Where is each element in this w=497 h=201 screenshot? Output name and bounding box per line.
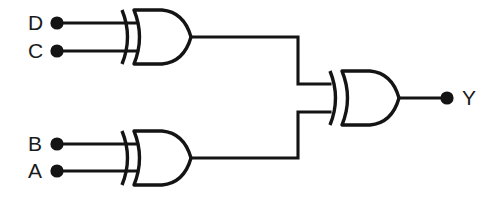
- terminal-dot-c[interactable]: [50, 44, 63, 57]
- gate-body-bottom: [134, 131, 191, 185]
- gate-bottom-xor[interactable]: [57, 112, 330, 185]
- xor-outer-arc-bottom: [122, 131, 128, 185]
- wire-net2: [191, 112, 330, 158]
- circuit-schematic-svg: [0, 0, 497, 201]
- wire-net1: [191, 37, 330, 84]
- gate-top-xor[interactable]: [57, 10, 330, 84]
- logic-circuit-diagram: D C B A Y: [0, 0, 497, 201]
- gate-body-top: [134, 10, 191, 64]
- terminal-dot-d[interactable]: [50, 16, 63, 29]
- xor-outer-arc-output: [330, 71, 336, 125]
- terminal-dot-a[interactable]: [50, 164, 63, 177]
- label-output-y: Y: [462, 87, 476, 108]
- label-input-d: D: [28, 12, 43, 33]
- xor-outer-arc-top: [122, 10, 128, 64]
- gate-body-output: [342, 71, 399, 125]
- label-input-a: A: [28, 160, 42, 181]
- gate-output-xor[interactable]: [330, 71, 445, 125]
- terminal-dot-y[interactable]: [440, 91, 453, 104]
- label-input-b: B: [28, 133, 42, 154]
- label-input-c: C: [28, 40, 43, 61]
- terminal-dot-b[interactable]: [50, 137, 63, 150]
